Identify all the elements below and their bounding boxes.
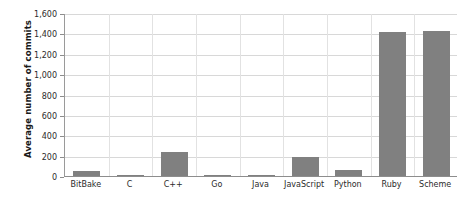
y-tick-label: 400 (11, 132, 57, 141)
y-tick-label: 200 (11, 152, 57, 161)
x-tick-label: C++ (164, 180, 183, 189)
x-tick-label: Ruby (381, 180, 401, 189)
gridline-vertical (327, 14, 328, 176)
gridline-vertical (152, 14, 153, 176)
y-tick-label: 800 (11, 91, 57, 100)
bar (423, 31, 450, 176)
x-tick-label: Python (334, 180, 362, 189)
x-axis-ticks: BitBakeCC++GoJavaJavaScriptPythonRubySch… (64, 180, 457, 200)
y-axis-ticks: 02004006008001,0001,2001,4001,600 (0, 0, 64, 163)
x-tick-label: Scheme (419, 180, 451, 189)
bar (335, 170, 362, 176)
bar (379, 32, 406, 176)
bar (248, 175, 275, 176)
gridline-vertical (414, 14, 415, 176)
bar (117, 175, 144, 176)
gridline-vertical (283, 14, 284, 176)
gridline-vertical (240, 14, 241, 176)
bar (292, 157, 319, 176)
gridline-vertical (196, 14, 197, 176)
y-tick-label: 0 (11, 173, 57, 182)
gridline-vertical (109, 14, 110, 176)
bar-chart: Average number of commits 02004006008001… (0, 0, 469, 211)
plot-area (64, 14, 457, 177)
x-tick-label: JavaScript (284, 180, 324, 189)
y-tick-mark (60, 177, 64, 178)
gridline-horizontal (65, 14, 457, 15)
gridline-vertical (371, 14, 372, 176)
bar (161, 152, 188, 176)
x-tick-label: BitBake (71, 180, 102, 189)
y-tick-label: 1,000 (11, 71, 57, 80)
bar (204, 175, 231, 176)
x-tick-label: C (127, 180, 133, 189)
x-tick-label: Java (252, 180, 269, 189)
bar (73, 171, 100, 176)
y-tick-label: 1,400 (11, 30, 57, 39)
y-tick-label: 600 (11, 111, 57, 120)
y-tick-label: 1,600 (11, 10, 57, 19)
y-tick-label: 1,200 (11, 50, 57, 59)
x-tick-label: Go (211, 180, 222, 189)
